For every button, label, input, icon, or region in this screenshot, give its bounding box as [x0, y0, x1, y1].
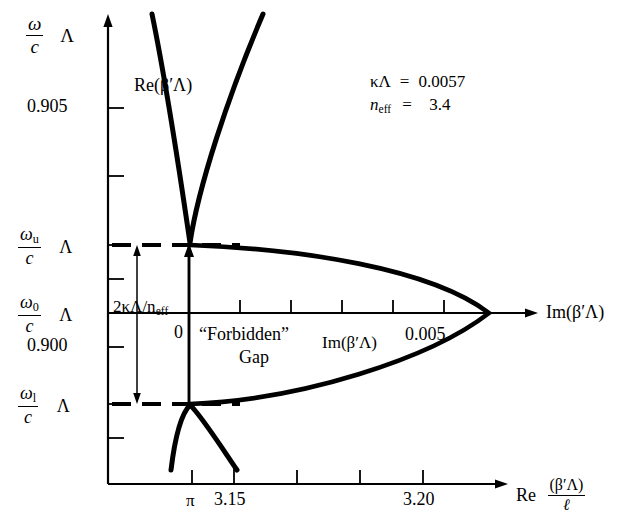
- bottom-axis-label-den: ℓ: [548, 496, 586, 514]
- xtick-label-pi: π: [186, 492, 195, 509]
- mid-axis-label: Im(β′Λ): [546, 303, 604, 321]
- mid-axis-ticks: [240, 300, 444, 313]
- parameter-kappa-lambda-eq: =: [400, 72, 410, 91]
- gap-double-arrow: [133, 245, 141, 404]
- curve-label-im: Im(β′Λ): [322, 334, 377, 351]
- xtick-label-320: 3.20: [403, 490, 435, 508]
- curve-re-upper: [152, 14, 263, 243]
- parameter-n-eff-sub: eff: [379, 103, 392, 116]
- vertical-axis-label-lambda: Λ: [60, 26, 74, 45]
- parameter-kappa-lambda-value: 0.0057: [419, 72, 466, 91]
- curve-re-lower: [171, 405, 237, 470]
- dispersion-diagram: [0, 0, 617, 529]
- omega-l-lambda: Λ: [57, 397, 70, 415]
- vertical-axis-label-num: ω: [26, 14, 43, 36]
- parameter-n-eff: neff = 3.4: [370, 96, 450, 116]
- forbidden-gap-line2: Gap: [239, 348, 269, 366]
- xtick-label-315: 3.15: [214, 490, 246, 508]
- vertical-axis-label: ω c Λ: [26, 14, 74, 57]
- omega-0-den: c: [18, 316, 41, 336]
- omega-l-num: ω: [20, 383, 33, 403]
- bottom-axis-label-num: (β′Λ): [548, 477, 586, 496]
- bottom-axis-label-re: Re: [516, 485, 536, 505]
- gap-arrow-label-main: 2κΛ/n: [113, 297, 156, 316]
- bottom-axis-ticks: [192, 468, 423, 484]
- parameter-kappa-lambda: κΛ = 0.0057: [370, 73, 465, 90]
- omega-0-lambda: Λ: [59, 306, 72, 324]
- parameter-kappa-lambda-name: κΛ: [370, 72, 390, 91]
- parameter-n-eff-name: n: [370, 95, 379, 114]
- mid-tick-label-0005: 0.005: [405, 325, 446, 343]
- origin-label: 0: [174, 323, 183, 341]
- omega-0-num: ω: [20, 292, 33, 312]
- level-label-omega-l: ωl c Λ: [18, 384, 70, 427]
- ytick-label-0900: 0.900: [27, 336, 68, 354]
- omega-u-num: ω: [20, 224, 33, 244]
- level-label-omega-0: ω0 c Λ: [18, 293, 72, 336]
- vertical-axis-arrowhead: [103, 14, 112, 27]
- mid-axis-arrowhead: [525, 308, 538, 317]
- omega-u-den: c: [18, 248, 41, 268]
- omega-l-sub: l: [33, 391, 36, 405]
- level-label-omega-u: ωu c Λ: [18, 225, 72, 268]
- vertical-axis-label-den: c: [26, 36, 43, 57]
- omega-u-lambda: Λ: [59, 238, 72, 256]
- ytick-label-0905: 0.905: [27, 97, 68, 115]
- bottom-axis-arrowhead: [495, 479, 508, 488]
- omega-0-sub: 0: [33, 300, 39, 314]
- gap-center-arrow: [184, 243, 194, 405]
- omega-l-den: c: [18, 407, 38, 427]
- parameter-n-eff-eq: =: [402, 95, 412, 114]
- omega-u-sub: u: [33, 232, 39, 246]
- curve-label-re: Re(β′Λ): [134, 76, 192, 94]
- forbidden-gap-line1: “Forbidden”: [199, 325, 289, 343]
- gap-arrow-label-sub: eff: [156, 305, 169, 318]
- gap-arrow-label: 2κΛ/neff: [113, 298, 168, 318]
- bottom-axis-label: Re (β′Λ) ℓ: [516, 477, 585, 514]
- parameter-n-eff-value: 3.4: [429, 95, 450, 114]
- vertical-axis-ticks: [108, 108, 124, 438]
